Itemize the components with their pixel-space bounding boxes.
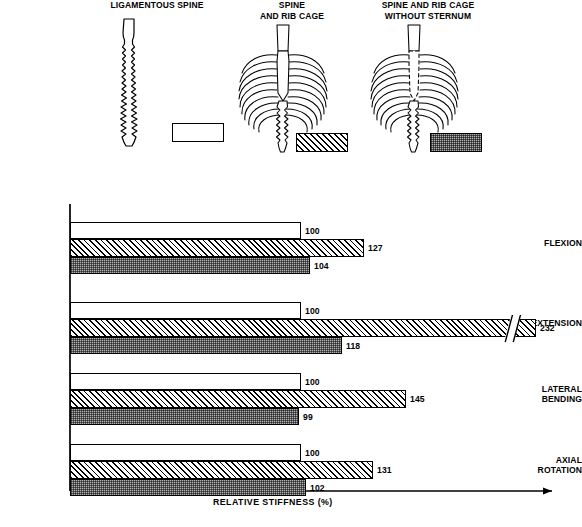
relative-stiffness-bar-chart: FLEXION EXTENSION LATERAL BENDING AXIAL … (0, 180, 582, 527)
bar-extension-spine-and-rib-cage (70, 319, 536, 337)
bar-flexion-spine-and-rib-cage (70, 239, 364, 257)
x-axis-arrowhead (543, 488, 552, 495)
bar-value-lateral-bending-without-sternum: 99 (303, 412, 313, 422)
bar-axial-rotation-ligamentous-spine (70, 444, 301, 461)
bar-flexion-without-sternum (70, 257, 310, 274)
bar-value-axial-rotation-without-sternum: 102 (310, 483, 325, 493)
legend-swatch-ligamentous-spine (172, 123, 224, 142)
bar-value-axial-rotation-spine-and-rib-cage: 131 (377, 465, 392, 475)
bar-axial-rotation-spine-and-rib-cage (70, 461, 373, 479)
bar-flexion-ligamentous-spine (70, 222, 301, 239)
bar-lateral-bending-spine-and-rib-cage (70, 390, 406, 408)
legend-title-spine-and-rib-cage-without-sternum: SPINE AND RIB CAGE WITHOUT STERNUM (348, 0, 508, 21)
bar-value-lateral-bending-spine-and-rib-cage: 145 (410, 394, 425, 404)
bar-extension-ligamentous-spine (70, 302, 301, 319)
bar-value-flexion-without-sternum: 104 (314, 261, 329, 271)
spine-and-rib-cage-illustration (222, 21, 362, 161)
bar-value-extension-without-sternum: 118 (346, 341, 360, 351)
category-label-flexion: FLEXION (516, 238, 582, 248)
spine-and-rib-cage-without-sternum-illustration (348, 21, 508, 161)
category-label-lateral-bending: LATERAL BENDING (516, 384, 582, 404)
specimen-legend-panel: LIGAMENTOUS SPINE SPINE AND RIB CAGE (0, 0, 582, 180)
legend-item-spine-and-rib-cage: SPINE AND RIB CAGE (222, 0, 362, 161)
legend-title-spine-and-rib-cage: SPINE AND RIB CAGE (222, 0, 362, 21)
ligamentous-spine-illustration (72, 11, 242, 161)
legend-swatch-spine-and-rib-cage (296, 133, 348, 152)
bar-value-flexion-ligamentous-spine: 100 (305, 226, 320, 236)
category-label-axial-rotation: AXIAL ROTATION (516, 455, 582, 475)
legend-title-ligamentous-spine: LIGAMENTOUS SPINE (72, 0, 242, 11)
bar-value-axial-rotation-ligamentous-spine: 100 (305, 448, 320, 458)
legend-item-ligamentous-spine: LIGAMENTOUS SPINE (72, 0, 242, 161)
legend-swatch-spine-and-rib-cage-without-sternum (430, 133, 482, 152)
bar-value-extension-spine-and-rib-cage: 232 (540, 323, 555, 333)
bar-value-lateral-bending-ligamentous-spine: 100 (305, 377, 320, 387)
legend-item-spine-and-rib-cage-without-sternum: SPINE AND RIB CAGE WITHOUT STERNUM (348, 0, 508, 161)
x-axis-label: RELATIVE STIFFNESS (%) (213, 497, 333, 507)
bar-lateral-bending-without-sternum (70, 408, 299, 425)
bar-lateral-bending-ligamentous-spine (70, 373, 301, 390)
bar-value-extension-ligamentous-spine: 100 (305, 306, 320, 316)
bar-value-flexion-spine-and-rib-cage: 127 (368, 243, 383, 253)
bar-extension-without-sternum (70, 337, 342, 354)
bar-axial-rotation-without-sternum (70, 479, 306, 496)
